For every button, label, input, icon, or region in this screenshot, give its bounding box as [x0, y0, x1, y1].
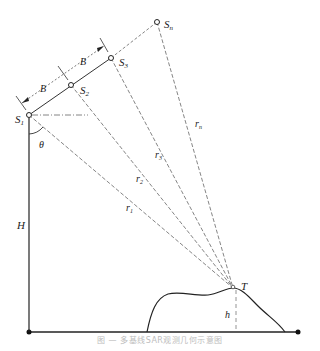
geometry-diagram: B B θ S1 S2 S3 Sn r1 r2 r3 rn H h T — [0, 0, 320, 351]
satellite-sn-label: Sn — [164, 18, 174, 32]
satellite-s2-node — [69, 83, 74, 88]
range-line-r2 — [71, 85, 233, 288]
range-label-r2: r2 — [136, 173, 143, 185]
terrain-profile — [147, 288, 285, 332]
satellite-s2-label: S2 — [80, 84, 90, 98]
target-height-label: h — [225, 309, 230, 320]
target-node — [231, 285, 235, 289]
figure-caption: 图 — 多基线SAR观测几何示意图 — [0, 334, 320, 345]
satellite-s3-node — [109, 56, 114, 61]
satellite-s1-node — [27, 113, 32, 118]
range-label-r1: r1 — [126, 202, 133, 214]
baseline-dimension-line — [22, 46, 104, 103]
look-angle-arc — [29, 127, 43, 134]
baseline-label-2: B — [80, 56, 86, 67]
range-line-rn — [157, 22, 233, 288]
baseline-tick-3 — [100, 38, 108, 52]
range-label-r3: r3 — [155, 149, 162, 161]
baseline-tick-2 — [58, 66, 68, 80]
baseline-tick-1 — [16, 96, 26, 110]
platform-height-label: H — [16, 219, 26, 231]
baseline-label-1: B — [40, 83, 46, 94]
dimension-arrow-left — [22, 97, 29, 103]
dimension-arrow-right — [97, 46, 104, 52]
look-angle-label: θ — [39, 139, 44, 150]
satellite-s3-label: S3 — [119, 56, 129, 70]
baseline-extension — [111, 22, 157, 58]
satellite-s1-label: S1 — [15, 113, 24, 127]
range-line-r1 — [29, 115, 233, 288]
range-label-rn: rn — [195, 118, 202, 130]
target-label: T — [241, 280, 248, 292]
satellite-sn-node — [155, 20, 160, 25]
range-line-r3 — [111, 58, 233, 288]
